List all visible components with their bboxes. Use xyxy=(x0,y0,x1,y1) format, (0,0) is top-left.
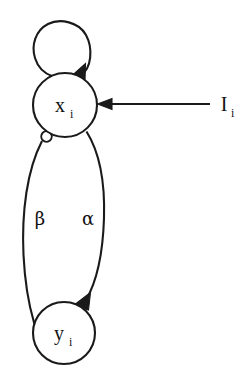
input-arrowhead-icon xyxy=(98,99,113,110)
node-x-label: x xyxy=(55,94,65,116)
node-x[interactable]: x i xyxy=(33,73,97,137)
beta-label: β xyxy=(35,208,45,229)
node-y-label: y xyxy=(54,322,64,345)
edge-self-loop-x xyxy=(34,21,91,80)
external-input-arrow: I i xyxy=(98,93,236,120)
alpha-label: α xyxy=(82,208,94,229)
node-y-circle[interactable] xyxy=(33,302,95,364)
edge-alpha-x-to-y: α xyxy=(74,132,105,311)
circuit-diagram-canvas: α β x i y i I i xyxy=(0,0,248,383)
input-label: I xyxy=(221,93,228,115)
input-subscript: i xyxy=(231,106,235,120)
node-y[interactable]: y i xyxy=(33,302,95,364)
node-x-circle[interactable] xyxy=(33,73,97,137)
diagram-root: α β x i y i I i xyxy=(0,0,248,383)
